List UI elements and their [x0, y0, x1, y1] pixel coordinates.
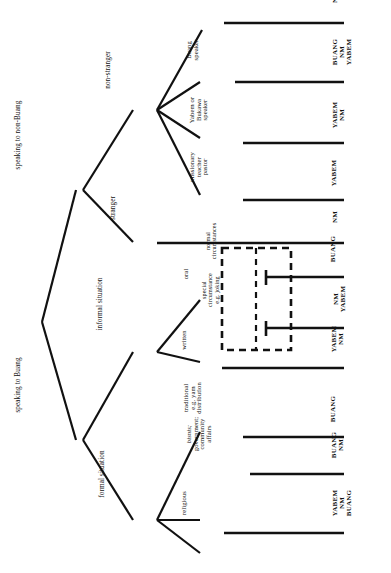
leaf-buang-speaker-line-2: speaker — [193, 18, 200, 82]
outcome-bisnis: BUANG NM — [331, 416, 345, 474]
outcome-oral-normal-1: BUANG — [330, 221, 337, 277]
outcome-buang-speaker-3: YABEM — [346, 22, 353, 82]
outcome-yabem-bukawa-2: NM — [339, 87, 346, 143]
leaf-religious-line-1: religious — [181, 473, 188, 533]
box-entry-special: special circumstance e.g. joking — [201, 252, 220, 328]
edge-nonbuang-to-stranger — [83, 190, 133, 242]
leaf-oral-line-1: oral — [183, 248, 190, 300]
outcome-other: NM — [332, 0, 339, 23]
edge-buang-to-formal — [83, 440, 133, 520]
node-speaking-to-non-buang-text: speaking to non-Buang — [14, 101, 22, 170]
edge-informal-to-oral — [157, 300, 200, 352]
leaf-missionary: missionary teacher pastor — [189, 134, 209, 200]
node-speaking-to-buang-text: speaking to Buang — [14, 357, 22, 412]
node-stranger: stranger — [110, 173, 117, 243]
node-speaking-to-non-buang: speaking to non-Buang — [15, 80, 22, 190]
edge-root-to-buang — [42, 322, 76, 440]
node-stranger-text: stranger — [109, 196, 117, 220]
outcome-oral-normal: BUANG — [330, 221, 337, 277]
node-informal-situation-text: informal situation — [96, 277, 104, 330]
outcome-buang-speaker: BUANG NM YABEM — [332, 22, 353, 82]
outcome-other-1: NM — [332, 0, 339, 23]
node-informal-situation: informal situation — [97, 256, 104, 352]
leaf-missionary-line-3: pastor — [202, 134, 209, 200]
node-non-stranger: non-stranger — [105, 30, 112, 110]
leaf-oral: oral — [183, 248, 190, 300]
outcome-written-2: NM — [338, 310, 345, 368]
outcome-religious: YABEM NM BUANG — [332, 473, 353, 533]
edge-formal-to-religious — [157, 520, 200, 553]
node-non-stranger-text: non-stranger — [104, 51, 112, 89]
leaf-religious: religious — [181, 473, 188, 533]
outcome-bisnis-2: NM — [338, 416, 345, 474]
node-formal-situation-text: formal situation — [98, 450, 106, 497]
leaf-buang-speaker: Buang speaker — [186, 18, 199, 82]
leaf-bisnis: bisnis; government; community affairs — [186, 394, 213, 474]
box-special-line-3: e.g. joking — [214, 252, 220, 328]
outcome-yabem-bukawa: YABEM NM — [332, 87, 346, 143]
outcome-written: YABEM NM — [331, 310, 345, 368]
outcome-religious-3: BUANG — [346, 473, 353, 533]
decision-tree-diagram: decision to speak speaking to non-Buang … — [0, 0, 391, 573]
leaf-bisnis-line-4: affairs — [206, 394, 213, 474]
edge-root-to-nonbuang — [42, 190, 76, 322]
node-formal-situation: formal situation — [99, 428, 106, 520]
edge-nonbuang-to-nonstranger — [83, 110, 133, 190]
edge-buang-to-informal — [83, 352, 133, 440]
node-speaking-to-buang: speaking to Buang — [15, 330, 22, 440]
